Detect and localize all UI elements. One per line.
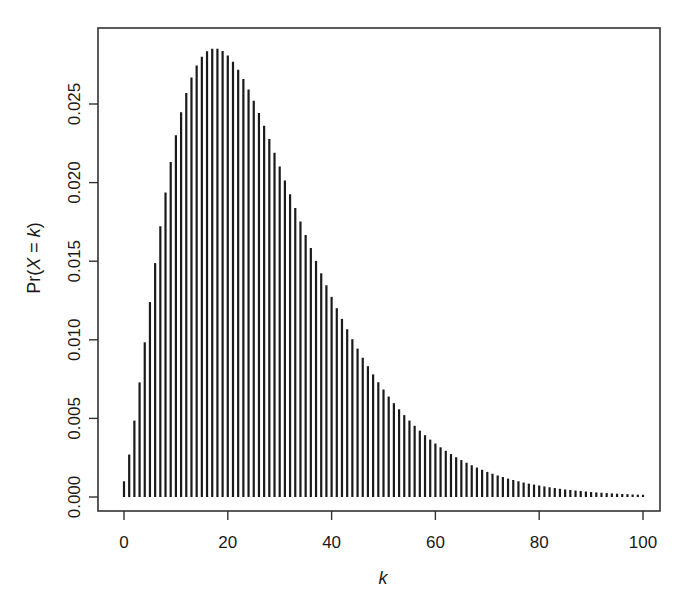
x-axis-label: k xyxy=(379,568,389,588)
y-tick-label: 0.000 xyxy=(65,476,84,519)
y-axis: 0.0000.0050.0100.0150.0200.025 xyxy=(65,83,98,519)
x-tick-label: 100 xyxy=(629,533,657,552)
pmf-bars xyxy=(124,49,643,497)
x-axis: 020406080100 xyxy=(119,511,657,552)
y-tick-label: 0.020 xyxy=(65,161,84,204)
y-tick-label: 0.005 xyxy=(65,397,84,440)
y-tick-label: 0.010 xyxy=(65,319,84,362)
x-tick-label: 60 xyxy=(426,533,445,552)
x-tick-label: 20 xyxy=(218,533,237,552)
y-tick-label: 0.025 xyxy=(65,83,84,126)
y-tick-label: 0.015 xyxy=(65,240,84,283)
pmf-chart: 020406080100 0.0000.0050.0100.0150.0200.… xyxy=(0,0,686,606)
y-axis-label: Pr(X = k) xyxy=(24,222,44,294)
x-tick-label: 0 xyxy=(119,533,128,552)
x-tick-label: 40 xyxy=(322,533,341,552)
x-tick-label: 80 xyxy=(530,533,549,552)
